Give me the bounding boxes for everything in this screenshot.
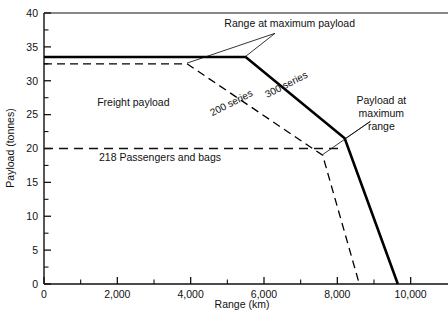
reference-line-label: 218 Passengers and bags: [99, 151, 221, 163]
x-tick-label: 2,000: [104, 288, 130, 300]
chart-background: [0, 0, 448, 312]
y-axis-title: Payload (tonnes): [4, 108, 16, 187]
y-tick-label: 0: [32, 278, 38, 290]
annotation-line: maximum: [359, 107, 405, 119]
annotation-range-at-maximum-payload: Range at maximum payload: [224, 17, 355, 29]
y-tick-label: 5: [32, 244, 38, 256]
y-tick-label: 40: [26, 7, 38, 19]
payload-range-chart: 0510152025303540 02,0004,0006,0008,00010…: [0, 0, 448, 312]
y-tick-label: 35: [26, 41, 38, 53]
x-axis-title: Range (km): [215, 298, 270, 310]
y-tick-label: 10: [26, 210, 38, 222]
annotation-line: Payload at: [357, 94, 407, 106]
chart-figure: 0510152025303540 02,0004,0006,0008,00010…: [0, 0, 448, 312]
x-tick-label: 10,000: [395, 288, 427, 300]
y-tick-label: 25: [26, 108, 38, 120]
x-tick-label: 4,000: [178, 288, 204, 300]
x-tick-label: 8,000: [324, 288, 350, 300]
y-tick-label: 20: [26, 142, 38, 154]
x-tick-label: 0: [41, 288, 47, 300]
annotation-line: range: [368, 120, 395, 132]
region-label-freight-payload: Freight payload: [97, 96, 170, 108]
y-tick-label: 15: [26, 176, 38, 188]
y-tick-label: 30: [26, 75, 38, 87]
